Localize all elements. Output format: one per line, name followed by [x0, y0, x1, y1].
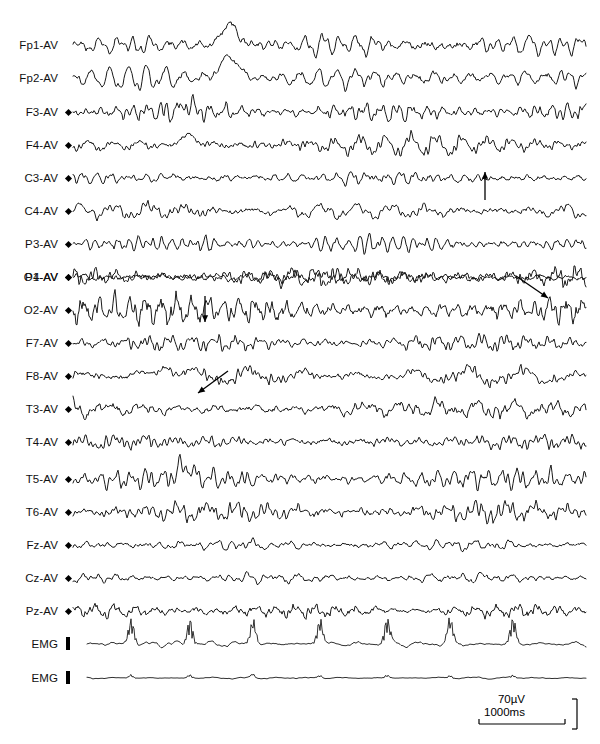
amplitude-scale-label: 70µV	[498, 693, 525, 705]
scale-bar: 1000ms70µV	[0, 0, 600, 744]
eeg-recording-figure: Fp1-AVFp2-AVF3-AVF4-AVC3-AVC4-AVP3-AVP4-…	[0, 0, 600, 744]
time-scale-label: 1000ms	[484, 706, 525, 718]
